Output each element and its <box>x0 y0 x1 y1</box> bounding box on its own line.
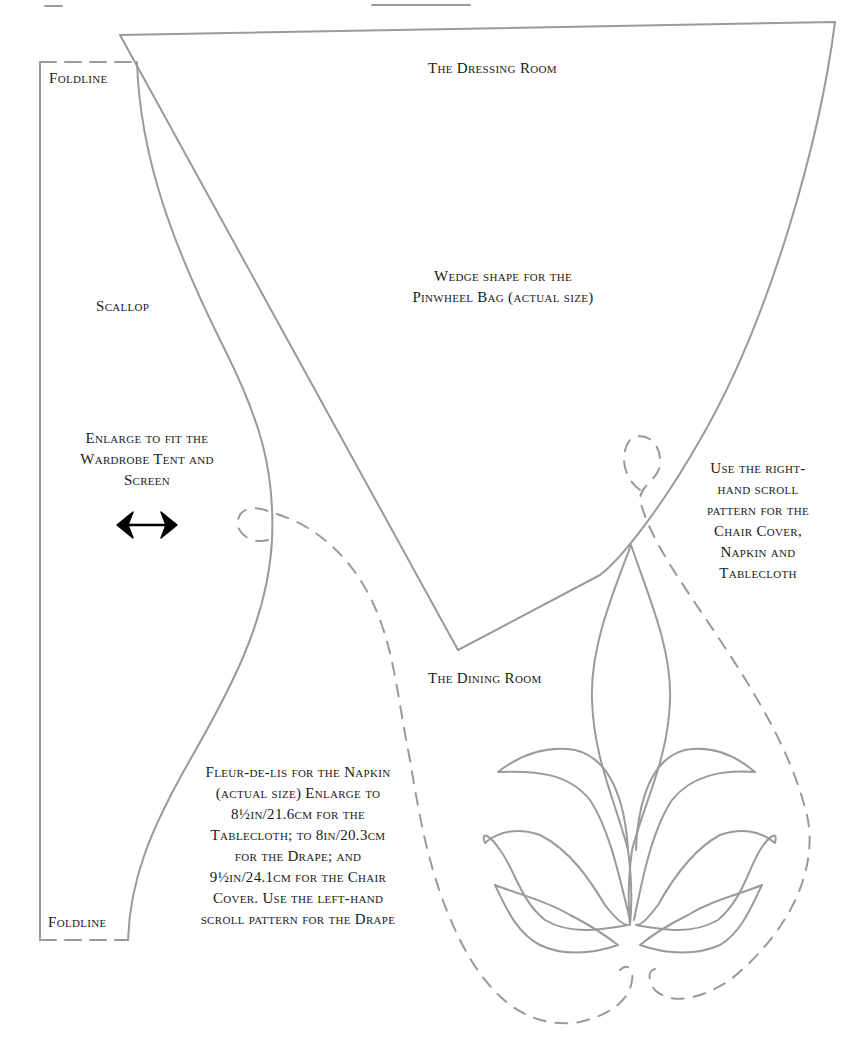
scallop-label: Scallop <box>96 296 149 317</box>
foldline-bottom-text: Foldline <box>48 914 106 930</box>
fleur-note-line-8: scroll pattern for the Drape <box>178 909 418 930</box>
fleur-note-line-7: Cover. Use the left-hand <box>178 888 418 909</box>
dressing-room-heading-text: The Dressing Room <box>428 60 557 76</box>
double-arrow-icon <box>117 512 177 538</box>
right-note-line-4: Chair Cover, <box>693 521 823 542</box>
right-note-line-6: Tablecloth <box>693 563 823 584</box>
enlarge-wardrobe-label: Enlarge to fit the Wardrobe Tent and Scr… <box>72 428 222 491</box>
wedge-label-line-2: Pinwheel Bag (actual size) <box>408 287 598 308</box>
foldline-top-text: Foldline <box>49 70 107 86</box>
wedge-shape-label: Wedge shape for the Pinwheel Bag (actual… <box>408 266 598 308</box>
enlarge-line-1: Enlarge to fit the <box>72 428 222 449</box>
enlarge-line-2: Wardrobe Tent and <box>72 449 222 470</box>
fleur-leaf-base-right <box>640 885 762 953</box>
foldline-bottom-label: Foldline <box>48 912 106 933</box>
right-note-line-5: Napkin and <box>693 542 823 563</box>
pattern-sheet: Foldline The Dressing Room Wedge shape f… <box>0 0 853 1040</box>
dining-room-heading-text: The Dining Room <box>428 670 542 686</box>
wedge-label-line-1: Wedge shape for the <box>408 266 598 287</box>
right-note-line-3: pattern for the <box>693 500 823 521</box>
fleur-note-line-3: 8½in/21.6cm for the <box>178 804 418 825</box>
fleur-note-line-6: 9½in/24.1cm for the Chair <box>178 867 418 888</box>
scallop-text: Scallop <box>96 298 149 314</box>
fleur-note-line-5: for the Drape; and <box>178 846 418 867</box>
fleur-leaf-upper-left <box>498 749 630 920</box>
fleur-leaf-lower-left <box>484 831 628 930</box>
enlarge-line-3: Screen <box>72 470 222 491</box>
right-note-line-2: hand scroll <box>693 479 823 500</box>
fleur-note-line-2: (actual size) Enlarge to <box>178 783 418 804</box>
fleur-de-lis-note: Fleur-de-lis for the Napkin (actual size… <box>178 762 418 930</box>
fleur-leaf-lower-right <box>636 831 776 930</box>
foldline-top-label: Foldline <box>49 68 107 89</box>
fleur-note-line-1: Fleur-de-lis for the Napkin <box>178 762 418 783</box>
right-scroll-note: Use the right- hand scroll pattern for t… <box>693 458 823 584</box>
fleur-note-line-4: Tablecloth; to 8in/20.3cm <box>178 825 418 846</box>
fleur-center-petal <box>592 545 670 925</box>
right-note-line-1: Use the right- <box>693 458 823 479</box>
dining-room-heading: The Dining Room <box>428 668 542 689</box>
dressing-room-heading: The Dressing Room <box>428 58 557 79</box>
